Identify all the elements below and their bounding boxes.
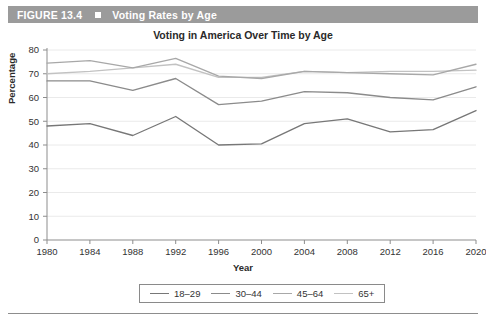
x-axis-tick-label: 1980 (36, 246, 57, 257)
x-axis-tick-label: 2016 (423, 246, 444, 257)
y-axis-tick-label: 10 (28, 211, 39, 222)
x-axis-tick-label: 2012 (380, 246, 401, 257)
legend-item-30-44[interactable]: 30–44 (211, 288, 261, 299)
x-axis-title: Year (0, 262, 486, 273)
y-axis-tick-label: 40 (28, 139, 39, 150)
x-axis-tick-label: 2008 (337, 246, 358, 257)
legend-item-label: 65+ (358, 288, 374, 299)
figure-number: FIGURE 13.4 (17, 9, 82, 21)
chart-title: Voting in America Over Time by Age (0, 29, 486, 41)
figure-header-bar: FIGURE 13.4 Voting Rates by Age (8, 6, 478, 23)
y-axis-tick-label: 20 (28, 187, 39, 198)
legend-item-65+[interactable]: 65+ (334, 288, 374, 299)
plot-area: 0102030405060708019801984198819921996200… (0, 44, 486, 259)
series-line-65+ (47, 64, 476, 77)
x-axis-tick-label: 1992 (165, 246, 186, 257)
bottom-divider-rule (8, 313, 478, 314)
y-axis-tick-label: 30 (28, 163, 39, 174)
legend-line-swatch-icon (273, 293, 292, 294)
square-bullet-icon (95, 12, 101, 18)
series-line-30-44 (47, 79, 476, 105)
y-axis-tick-label: 60 (28, 92, 39, 103)
line-chart: 0102030405060708019801984198819921996200… (0, 44, 486, 259)
x-axis-tick-label: 2000 (251, 246, 272, 257)
chart-legend: 18–2930–4445–6465+ (139, 284, 385, 303)
legend-line-swatch-icon (150, 293, 169, 294)
legend-line-swatch-icon (211, 293, 230, 294)
y-axis-tick-label: 80 (28, 44, 39, 55)
y-axis-tick-label: 70 (28, 68, 39, 79)
y-axis-tick-label: 0 (34, 234, 39, 245)
y-axis-tick-label: 50 (28, 116, 39, 127)
x-axis-tick-label: 1996 (208, 246, 229, 257)
legend-item-18-29[interactable]: 18–29 (150, 288, 200, 299)
figure-page: FIGURE 13.4 Voting Rates by Age Voting i… (0, 0, 486, 324)
legend-item-label: 18–29 (174, 288, 200, 299)
x-axis-tick-label: 2020 (465, 246, 486, 257)
x-axis-tick-label: 1988 (122, 246, 143, 257)
legend-item-45-64[interactable]: 45–64 (273, 288, 323, 299)
x-axis-tick-label: 1984 (79, 246, 100, 257)
legend-line-swatch-icon (334, 293, 353, 294)
legend-item-label: 30–44 (235, 288, 261, 299)
x-axis-tick-label: 2004 (294, 246, 315, 257)
figure-title: Voting Rates by Age (112, 9, 217, 21)
legend-item-label: 45–64 (297, 288, 323, 299)
series-line-18-29 (47, 111, 476, 145)
series-line-45-64 (47, 58, 476, 78)
